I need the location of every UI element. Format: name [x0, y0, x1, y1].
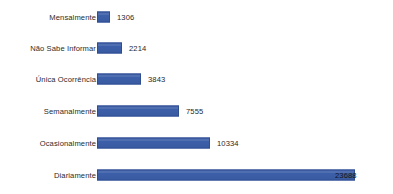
category-label: Diariamente	[54, 171, 96, 180]
bar-chart: Mensalmente 1306 Não Sabe Informar 2214 …	[0, 0, 393, 194]
bar-row[interactable]: Semanalmente 7555	[0, 95, 393, 127]
bar-row[interactable]: Não Sabe Informar 2214	[0, 32, 393, 64]
bar[interactable]	[97, 138, 210, 149]
bar[interactable]	[97, 43, 122, 54]
bar-value-label: 23688	[335, 171, 357, 180]
category-label: Ocasionalmente	[40, 139, 96, 148]
category-label: Única Ocorrência	[36, 75, 96, 84]
category-label: Não Sabe Informar	[30, 44, 96, 53]
bar[interactable]	[97, 74, 141, 85]
bar-value-label: 2214	[129, 44, 146, 53]
bar-value-label: 1306	[117, 13, 134, 22]
bar-row[interactable]: Diariamente 23688	[0, 159, 393, 191]
bar-row[interactable]: Ocasionalmente 10334	[0, 127, 393, 159]
category-label: Semanalmente	[44, 107, 96, 116]
bar[interactable]	[97, 106, 179, 117]
bar-value-label: 3843	[148, 75, 165, 84]
bar-row[interactable]: Mensalmente 1306	[0, 1, 393, 33]
bar[interactable]	[97, 12, 110, 23]
bar-value-label: 10334	[217, 139, 239, 148]
bar-row[interactable]: Única Ocorrência 3843	[0, 63, 393, 95]
bar[interactable]	[97, 170, 355, 181]
category-label: Mensalmente	[49, 13, 96, 22]
plot-area: Mensalmente 1306 Não Sabe Informar 2214 …	[0, 0, 393, 194]
bar-value-label: 7555	[186, 107, 203, 116]
